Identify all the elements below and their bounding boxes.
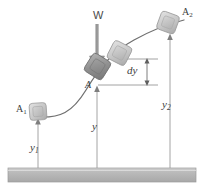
block-a1-label: A1	[16, 104, 27, 114]
y2-label: y2	[162, 99, 171, 110]
block-a2-label: A2	[182, 7, 193, 17]
y1-label: y1	[30, 142, 39, 153]
physics-diagram-figure: W A A1 A2 y1 y y2 dy	[0, 0, 204, 189]
block-a1-label-sub: 1	[23, 108, 27, 116]
y-label: y	[92, 121, 97, 132]
block-a2	[156, 10, 180, 34]
y2-label-sub: 2	[167, 103, 171, 112]
ground-datum-bar	[8, 168, 196, 182]
weight-label: W	[93, 10, 103, 21]
block-a2-label-sub: 2	[189, 11, 193, 19]
diagram-canvas	[0, 0, 204, 189]
y1-label-sub: 1	[35, 146, 39, 155]
dimension-lines-group	[35, 34, 173, 169]
dy-dimension-arrow	[145, 58, 150, 86]
point-a-label: A	[85, 80, 91, 90]
dy-label: dy	[127, 65, 137, 76]
block-a1	[29, 102, 47, 120]
